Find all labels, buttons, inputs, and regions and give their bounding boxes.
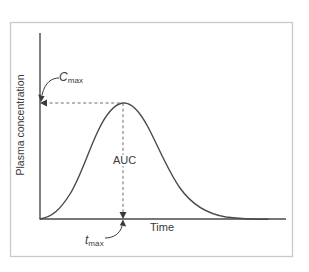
auc-label: AUC — [111, 155, 138, 166]
tmax-label: tmax — [85, 234, 104, 248]
cmax-label: Cmax — [59, 71, 83, 85]
x-axis-title: Time — [150, 222, 174, 233]
cmax-subscript: max — [68, 76, 83, 85]
y-axis-title: Plasma concentration — [13, 60, 27, 190]
cmax-symbol: C — [59, 70, 68, 84]
plasma-concentration-figure: Plasma concentration Time AUC Cmax tmax — [0, 0, 309, 272]
y-axis-title-text: Plasma concentration — [15, 75, 26, 176]
tmax-subscript: max — [88, 239, 103, 248]
